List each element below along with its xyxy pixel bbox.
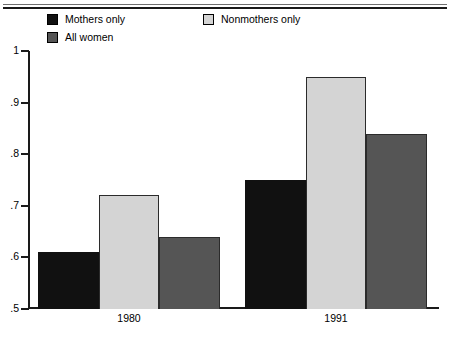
bars-group <box>30 51 439 309</box>
bar-nonmothers-only-1980 <box>99 195 160 309</box>
y-axis-tick <box>21 50 29 52</box>
y-axis-tick-label: .7 <box>0 200 19 210</box>
y-axis-tick <box>21 102 29 104</box>
bar-chart-figure: Mothers only All women Nonmothers only 1… <box>0 0 450 338</box>
legend-label-nonmothers-only: Nonmothers only <box>221 14 300 25</box>
y-axis-tick <box>21 308 29 310</box>
legend-item-all-women: All women <box>47 29 125 46</box>
y-axis-tick <box>21 205 29 207</box>
y-axis-tick-label: .6 <box>0 251 19 261</box>
legend-item-mothers-only: Mothers only <box>47 11 125 28</box>
caption-rule-thin <box>3 4 447 5</box>
y-axis-tick-label: .9 <box>0 97 19 107</box>
y-axis-tick-label: 1 <box>0 45 19 55</box>
x-axis-label-1980: 1980 <box>38 313 220 324</box>
bar-mothers-only-1991 <box>245 180 306 309</box>
bar-mothers-only-1980 <box>38 252 99 309</box>
bar-all-women-1980 <box>159 237 220 309</box>
legend-column-one: Mothers only All women <box>47 11 125 47</box>
legend-label-mothers-only: Mothers only <box>65 14 125 25</box>
legend-column-two: Nonmothers only <box>203 11 300 29</box>
bar-all-women-1991 <box>366 134 427 309</box>
bar-nonmothers-only-1991 <box>306 77 367 309</box>
plot-area: 1.9.8.7.6.5 19801991 <box>0 45 450 338</box>
legend-item-nonmothers-only: Nonmothers only <box>203 11 300 28</box>
caption-rule <box>3 7 447 9</box>
legend-swatch-mothers-only-icon <box>47 14 58 25</box>
y-axis-tick <box>21 256 29 258</box>
chart-legend: Mothers only All women Nonmothers only <box>47 11 427 45</box>
x-axis-label-1991: 1991 <box>245 313 427 324</box>
legend-swatch-nonmothers-only-icon <box>203 14 214 25</box>
y-axis-tick <box>21 153 29 155</box>
legend-label-all-women: All women <box>65 32 113 43</box>
y-axis-tick-label: .5 <box>0 303 19 313</box>
legend-swatch-all-women-icon <box>47 32 58 43</box>
y-axis-tick-label: .8 <box>0 148 19 158</box>
